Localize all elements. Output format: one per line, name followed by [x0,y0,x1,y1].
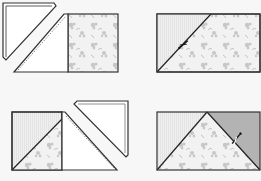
quilt-diagram [0,0,261,181]
step-4-panel [157,112,260,170]
step-2-panel [157,14,260,72]
floral-square [68,14,118,72]
step-1-panel [3,3,118,72]
diagram-canvas [0,0,261,181]
step-3-panel [12,101,128,170]
